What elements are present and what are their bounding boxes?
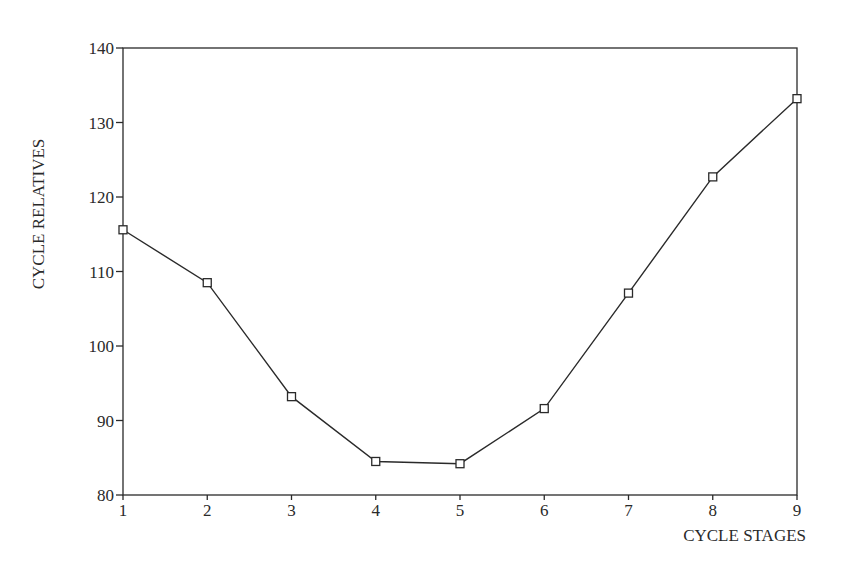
line-chart: 8090100110120130140 123456789 CYCLE RELA… (0, 0, 848, 579)
x-axis: 123456789 (119, 495, 802, 520)
y-tick-label: 100 (89, 337, 115, 356)
square-marker-icon (203, 279, 211, 287)
y-tick-label: 130 (89, 114, 115, 133)
x-tick-label: 3 (287, 501, 296, 520)
y-axis: 8090100110120130140 (89, 39, 124, 505)
square-marker-icon (793, 95, 801, 103)
square-marker-icon (372, 457, 380, 465)
y-axis-title: CYCLE RELATIVES (29, 139, 48, 290)
x-tick-label: 7 (624, 501, 633, 520)
x-tick-label: 1 (119, 501, 128, 520)
y-tick-label: 80 (97, 486, 114, 505)
x-tick-label: 8 (709, 501, 718, 520)
square-marker-icon (540, 405, 548, 413)
x-tick-label: 5 (456, 501, 465, 520)
square-marker-icon (119, 226, 127, 234)
x-tick-label: 9 (793, 501, 802, 520)
x-tick-label: 6 (540, 501, 549, 520)
series-line (123, 99, 797, 464)
y-tick-label: 140 (89, 39, 115, 58)
square-marker-icon (456, 460, 464, 468)
y-tick-label: 110 (89, 263, 114, 282)
data-series (119, 95, 801, 468)
plot-border (123, 48, 797, 495)
plot-frame (123, 48, 797, 495)
square-marker-icon (625, 289, 633, 297)
square-marker-icon (288, 393, 296, 401)
square-marker-icon (709, 173, 717, 181)
y-tick-label: 120 (89, 188, 115, 207)
y-tick-label: 90 (97, 412, 114, 431)
x-tick-label: 4 (372, 501, 381, 520)
x-tick-label: 2 (203, 501, 212, 520)
x-axis-title: CYCLE STAGES (683, 526, 806, 545)
